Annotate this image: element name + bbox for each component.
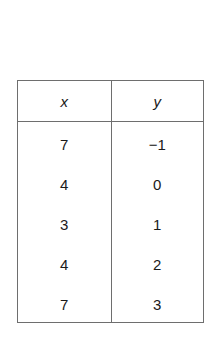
cell-y: −1	[112, 124, 204, 164]
table-header: x y	[18, 81, 203, 122]
table-row: 7 3	[18, 284, 203, 324]
header-y: y	[112, 81, 204, 121]
table-row: 4 2	[18, 244, 203, 284]
table-row: 3 1	[18, 204, 203, 244]
cell-y: 1	[112, 204, 204, 244]
cell-x: 3	[18, 204, 111, 244]
cell-y: 3	[112, 284, 204, 324]
cell-y: 0	[112, 164, 204, 204]
cell-x: 4	[18, 164, 111, 204]
header-x: x	[18, 81, 111, 121]
cell-x: 7	[18, 124, 111, 164]
cell-y: 2	[112, 244, 204, 284]
cell-x: 7	[18, 284, 111, 324]
table-body: 7 −1 4 0 3 1 4 2 7 3	[18, 124, 203, 324]
table-row: 4 0	[18, 164, 203, 204]
xy-table: x y 7 −1 4 0 3 1 4 2 7 3	[17, 80, 204, 323]
table-row: 7 −1	[18, 124, 203, 164]
cell-x: 4	[18, 244, 111, 284]
